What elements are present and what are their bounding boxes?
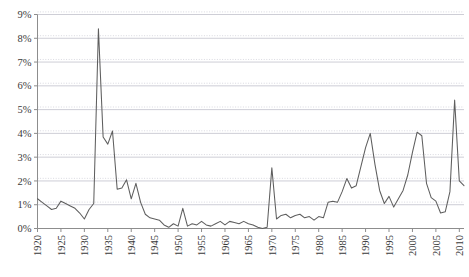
x-tick-label: 1985 xyxy=(337,235,348,256)
x-tick-label: 1970 xyxy=(267,235,278,256)
y-tick-labels: 0%1%2%3%4%5%6%7%8%9% xyxy=(18,9,32,234)
x-tick-label: 1965 xyxy=(243,235,254,256)
y-tick-label: 6% xyxy=(18,80,32,91)
y-tick-label: 7% xyxy=(18,57,32,68)
y-tick-label: 1% xyxy=(18,199,32,210)
y-tick-label: 3% xyxy=(18,152,32,163)
series-line-annual-rate xyxy=(38,29,465,229)
data-series xyxy=(38,29,465,229)
x-tick-labels: 1920192519301935194019451950195519601965… xyxy=(32,235,465,256)
x-tick-label: 2000 xyxy=(407,235,418,256)
x-tick-label: 1930 xyxy=(79,235,90,256)
x-tick-label: 1950 xyxy=(173,235,184,256)
x-tick-label: 1995 xyxy=(384,235,395,256)
x-tick-label: 2005 xyxy=(431,235,442,256)
y-tick-label: 5% xyxy=(18,104,32,115)
x-axis xyxy=(38,229,465,233)
line-chart: 0%1%2%3%4%5%6%7%8%9% 1920192519301935194… xyxy=(0,0,469,277)
y-tick-label: 0% xyxy=(18,223,32,234)
chart-container: 0%1%2%3%4%5%6%7%8%9% 1920192519301935194… xyxy=(0,0,469,277)
x-tick-label: 1935 xyxy=(103,235,114,256)
x-tick-label: 1925 xyxy=(56,235,67,256)
y-axis xyxy=(34,15,38,229)
x-tick-label: 1990 xyxy=(360,235,371,256)
x-tick-label: 1975 xyxy=(290,235,301,256)
y-tick-label: 2% xyxy=(18,176,32,187)
x-tick-label: 2010 xyxy=(454,235,465,256)
y-tick-label: 4% xyxy=(18,128,32,139)
x-tick-label: 1920 xyxy=(32,235,43,256)
x-tick-label: 1940 xyxy=(126,235,137,256)
x-tick-label: 1960 xyxy=(220,235,231,256)
x-tick-label: 1955 xyxy=(196,235,207,256)
x-tick-label: 1945 xyxy=(149,235,160,256)
y-tick-label: 8% xyxy=(18,33,32,44)
y-tick-label: 9% xyxy=(18,9,32,20)
x-tick-label: 1980 xyxy=(314,235,325,256)
